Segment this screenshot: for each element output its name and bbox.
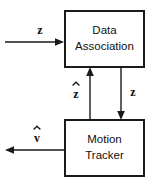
- signal-label-measurement-input: z: [37, 23, 43, 37]
- block-motion-tracker-line1: Motion: [87, 133, 122, 145]
- hat-accent-v-hat-icon: [34, 126, 41, 129]
- signal-label-association-feedback: z: [73, 87, 79, 101]
- arrow-measurement-input-head: [55, 38, 64, 46]
- block-motion-tracker: [65, 120, 144, 176]
- arrow-associated-measurement-head: [117, 111, 125, 120]
- block-data-association-line1: Data: [92, 24, 117, 36]
- signal-label-associated-measurement: z: [130, 85, 136, 99]
- diagram-svg: Data Association Motion Tracker z z z v: [0, 0, 158, 183]
- block-motion-tracker-line2: Tracker: [85, 149, 124, 161]
- hat-accent-z-hat-icon: [73, 82, 80, 85]
- block-data-association-line2: Association: [75, 40, 134, 52]
- block-data-association: [65, 11, 144, 67]
- arrow-association-feedback-head: [86, 67, 94, 76]
- signal-label-velocity-output: v: [34, 131, 40, 145]
- arrow-velocity-output-head: [5, 146, 14, 154]
- block-diagram-canvas: Data Association Motion Tracker z z z v: [0, 0, 158, 183]
